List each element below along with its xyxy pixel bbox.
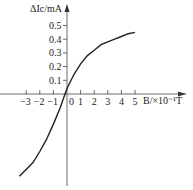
x-tick-label: −3 — [20, 96, 31, 107]
x-tick-label: 3 — [105, 96, 110, 107]
y-tick-label: 0.5 — [49, 20, 62, 31]
x-tick-label: 4 — [119, 96, 124, 107]
x-axis-label: B/×10⁻¹T — [143, 95, 182, 106]
x-tick-label: 1 — [78, 96, 83, 107]
y-arrow-icon — [65, 4, 70, 12]
y-tick-label: 0.3 — [49, 47, 62, 58]
chart: −3−2−10123450.10.20.30.40.5 ΔIc/mA B/×10… — [0, 0, 193, 190]
x-tick-label: −1 — [47, 96, 58, 107]
y-tick-label: 0.2 — [49, 61, 62, 72]
x-tick-label: −2 — [34, 96, 45, 107]
y-tick-label: 0.1 — [49, 75, 62, 86]
x-tick-label: 5 — [133, 96, 138, 107]
x-tick-label: 2 — [92, 96, 97, 107]
x-tick-label: 0 — [69, 96, 74, 107]
y-tick-label: 0.4 — [49, 34, 62, 45]
y-axis-label: ΔIc/mA — [30, 3, 63, 14]
